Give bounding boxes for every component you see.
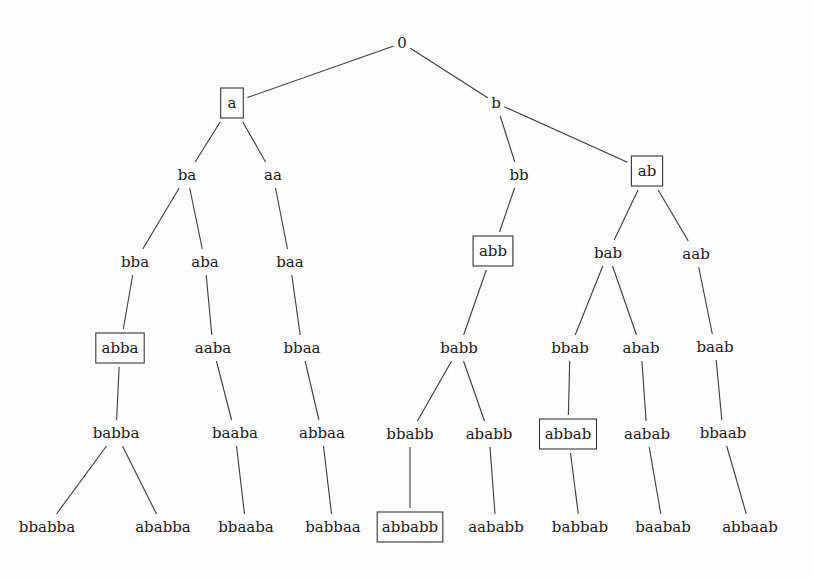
tree-node-bb: bb: [509, 166, 528, 184]
node-label: abb: [479, 242, 507, 260]
tree-diagram: 0abbaaabbabbbaababaaabbbabaababbaaababba…: [0, 0, 814, 578]
node-label: bbabba: [19, 518, 75, 536]
edge-b-bb: [500, 116, 515, 162]
tree-node-babbab: babbab: [552, 518, 608, 536]
node-label: ab: [638, 162, 657, 180]
edge-aa-baa: [276, 188, 288, 249]
tree-node-ab: ab: [631, 156, 662, 186]
tree-node-abb: abb: [473, 236, 513, 266]
edge-bbaab-abbaab: [727, 446, 747, 514]
edge-babba-ababba: [123, 446, 157, 514]
node-label: bab: [594, 244, 622, 262]
tree-node-bbabba: bbabba: [19, 518, 75, 536]
node-label: bbaab: [700, 424, 747, 442]
node-label: baa: [276, 253, 304, 271]
tree-node-ababba: ababba: [135, 518, 191, 536]
tree-node-bbabb: bbabb: [386, 425, 433, 443]
node-label: aaba: [195, 339, 231, 357]
node-label: aba: [191, 253, 219, 271]
node-label: babb: [440, 339, 478, 357]
edge-aaba-baaba: [216, 361, 231, 420]
tree-node-aaba: aaba: [195, 339, 231, 357]
edge-babb-bbabb: [417, 361, 451, 421]
tree-node-baab: baab: [696, 338, 733, 356]
tree-node-bab: bab: [594, 244, 622, 262]
edge-bab-bbab: [575, 266, 603, 335]
node-label: bba: [121, 253, 149, 271]
edge-abba-babba: [117, 367, 120, 420]
edge-b-ab: [504, 107, 627, 163]
tree-node-bbab: bbab: [551, 339, 589, 357]
tree-node-abba: abba: [96, 333, 144, 363]
node-label: 0: [397, 34, 407, 52]
edge-a-aa: [243, 122, 266, 162]
tree-node-baabab: baabab: [635, 518, 691, 536]
tree-node-baa: baa: [276, 253, 304, 271]
edge-baab-bbaab: [716, 360, 722, 420]
edge-baaba-bbaaba: [237, 446, 245, 514]
node-label: bbab: [551, 339, 589, 357]
edge-abbaa-babbaa: [324, 446, 332, 514]
tree-node-babbaa: babbaa: [305, 518, 361, 536]
node-label: babbaa: [305, 518, 361, 536]
edge-a-ba: [195, 122, 220, 162]
edge-bbaa-abbaa: [305, 361, 319, 420]
tree-node-aa: aa: [264, 166, 282, 184]
edge-baa-bbaa: [292, 275, 300, 335]
edge-ba-aba: [190, 188, 203, 249]
node-label: bbaa: [283, 339, 320, 357]
tree-node-aabab: aabab: [624, 425, 670, 443]
edges-layer: [57, 46, 747, 514]
edge-ab-bab: [614, 190, 638, 240]
tree-node-aababb: aababb: [468, 518, 524, 536]
edge-ab-aab: [658, 190, 688, 241]
edge-aabab-baabab: [649, 447, 661, 514]
node-label: bb: [509, 166, 528, 184]
node-label: abbaab: [722, 518, 778, 536]
node-label: babba: [93, 424, 140, 442]
node-label: ba: [178, 166, 197, 184]
node-label: ababba: [135, 518, 191, 536]
node-label: bbaaba: [218, 518, 274, 536]
tree-node-baaba: baaba: [212, 424, 258, 442]
edge-ba-bba: [143, 188, 179, 249]
node-label: abba: [101, 339, 138, 357]
tree-node-a: a: [221, 88, 244, 118]
page: 0abbaaabbabbbaababaaabbbabaababbaaababba…: [0, 0, 814, 578]
edge-bba-abba: [123, 275, 132, 329]
edge-0-b: [410, 48, 487, 97]
edge-babba-bbabba: [57, 446, 107, 514]
node-label: bbabb: [386, 425, 433, 443]
node-label: b: [491, 94, 501, 112]
tree-node-aba: aba: [191, 253, 219, 271]
node-label: aabab: [624, 425, 670, 443]
edge-bbab-abbab: [568, 361, 569, 415]
tree-node-abbab: abbab: [540, 419, 597, 449]
node-label: aab: [682, 245, 710, 263]
node-label: abbabb: [382, 518, 438, 536]
tree-node-babb: babb: [440, 339, 478, 357]
tree-node-abbabb: abbabb: [377, 512, 443, 542]
tree-node-0: 0: [397, 34, 407, 52]
node-label: aababb: [468, 518, 524, 536]
node-label: aa: [264, 166, 282, 184]
tree-node-bbaaba: bbaaba: [218, 518, 274, 536]
edge-bab-abab: [613, 266, 637, 335]
node-label: baaba: [212, 424, 258, 442]
tree-node-abbaa: abbaa: [299, 424, 345, 442]
tree-node-abab: abab: [622, 339, 659, 357]
node-label: abbaa: [299, 424, 345, 442]
tree-node-abbaab: abbaab: [722, 518, 778, 536]
edge-abb-babb: [464, 270, 487, 335]
tree-node-ababb: ababb: [466, 425, 513, 443]
edge-aab-baab: [699, 267, 713, 334]
edge-abab-aabab: [642, 361, 646, 421]
node-label: baabab: [635, 518, 691, 536]
tree-node-bba: bba: [121, 253, 149, 271]
node-label: babbab: [552, 518, 608, 536]
tree-node-aab: aab: [682, 245, 710, 263]
node-label: abbab: [545, 425, 592, 443]
tree-node-bbaab: bbaab: [700, 424, 747, 442]
edge-0-a: [247, 46, 393, 98]
edge-babb-ababb: [464, 361, 485, 421]
